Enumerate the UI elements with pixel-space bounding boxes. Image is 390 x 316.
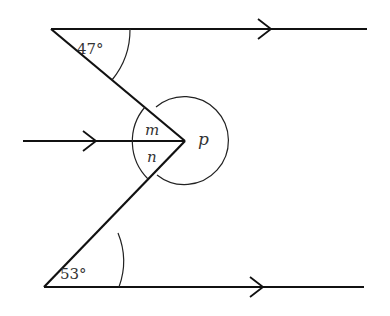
angle-53-arc bbox=[118, 233, 124, 287]
angle-m-label: m bbox=[145, 121, 159, 139]
angle-mn-arc bbox=[132, 107, 148, 179]
angle-47-arc bbox=[112, 29, 130, 80]
upper-transversal bbox=[51, 29, 185, 141]
angle-p-label: p bbox=[198, 129, 209, 149]
angle-n-label: n bbox=[147, 148, 157, 166]
angle-diagram: 47° 53° m n p bbox=[0, 0, 390, 316]
angle-53-label: 53° bbox=[60, 265, 87, 283]
angle-47-label: 47° bbox=[77, 40, 104, 58]
